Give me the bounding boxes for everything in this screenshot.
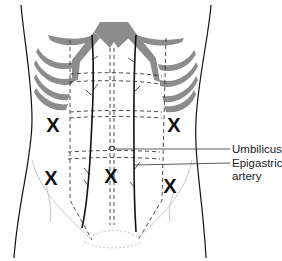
epigastric-artery-label-line2: artery	[232, 170, 261, 182]
leader-lines	[115, 149, 230, 165]
epigastric-artery-label-line1: Epigastric	[232, 157, 282, 169]
port-site-marker-upper-left: X	[46, 115, 59, 135]
port-site-marker-lower-left: X	[44, 168, 57, 188]
abdomen-diagram	[0, 0, 282, 261]
port-site-marker-upper-right: X	[167, 115, 180, 135]
rib-cage	[34, 22, 198, 112]
port-site-marker-lower-right: X	[163, 176, 176, 196]
port-site-marker-lower-center: X	[104, 166, 117, 186]
epigastric-arteries	[82, 35, 140, 232]
rectus-sheath-lines	[68, 38, 166, 240]
umbilicus-label: Umbilicus	[232, 143, 282, 155]
